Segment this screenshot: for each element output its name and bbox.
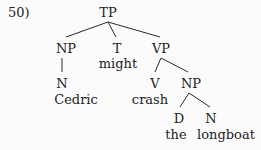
tree-node-t-word: might	[99, 57, 137, 71]
tree-node-n-obj: N	[205, 112, 216, 126]
branch-vp-to-v	[155, 58, 161, 72]
tree-node-np-obj: NP	[181, 77, 201, 91]
tree-node-d-word: the	[165, 128, 186, 142]
tree-node-n-subj: N	[56, 77, 67, 91]
branch-np-obj-to-n-obj	[189, 93, 210, 107]
branch-np-obj-to-d	[180, 93, 189, 107]
branch-tp-to-vp	[108, 22, 160, 37]
example-number: 50)	[8, 6, 30, 20]
tree-node-n-obj-word: longboat	[197, 128, 255, 142]
tree-node-d: D	[174, 112, 184, 126]
tree-node-t: T	[113, 42, 122, 56]
syntax-tree-diagram: 50) TPNPTmightVPNCedricVcrashNPDtheNlong…	[0, 0, 261, 150]
tree-node-vp: VP	[152, 42, 170, 56]
tree-node-n-subj-word: Cedric	[54, 93, 98, 107]
tree-node-np-subj: NP	[56, 42, 76, 56]
tree-node-v: V	[150, 77, 159, 91]
branch-vp-to-np-obj	[161, 58, 188, 72]
tree-node-tp: TP	[99, 6, 116, 20]
branch-tp-to-np-subj	[66, 22, 108, 37]
tree-node-v-word: crash	[132, 93, 168, 107]
